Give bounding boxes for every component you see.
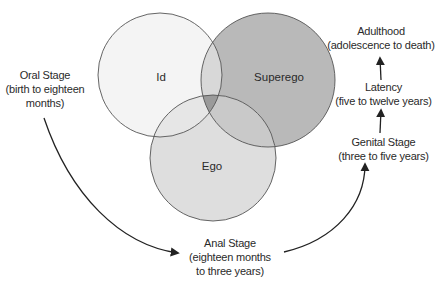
anal-stage-label: Anal Stage (eighteen months to three yea… xyxy=(180,236,280,278)
anal-stage-range: (eighteen months xyxy=(180,250,280,264)
oral-stage-range-2: months) xyxy=(0,96,90,110)
anal-stage-range-2: to three years) xyxy=(180,264,280,278)
ego-label: Ego xyxy=(202,160,222,172)
genital-stage-name: Genital Stage xyxy=(330,135,437,149)
genital-stage-label: Genital Stage (three to five years) xyxy=(330,135,437,163)
id-label: Id xyxy=(156,71,166,83)
oral-stage-label: Oral Stage (birth to eighteen months) xyxy=(0,68,90,110)
anal-stage-name: Anal Stage xyxy=(180,236,280,250)
superego-label: Superego xyxy=(254,71,304,83)
latency-to-adulthood-arrow xyxy=(380,58,381,80)
latency-label: Latency (five to twelve years) xyxy=(330,80,437,108)
oral-stage-name: Oral Stage xyxy=(0,68,90,82)
latency-name: Latency xyxy=(330,80,437,94)
adulthood-label: Adulthood (adolescence to death) xyxy=(325,24,437,52)
adulthood-range: (adolescence to death) xyxy=(325,38,437,52)
genital-stage-range: (three to five years) xyxy=(330,149,437,163)
latency-range: (five to twelve years) xyxy=(330,94,437,108)
anal-to-genital-arrow xyxy=(284,164,365,252)
adulthood-name: Adulthood xyxy=(325,24,437,38)
genital-to-latency-arrow xyxy=(380,110,381,133)
oral-stage-range: (birth to eighteen xyxy=(0,82,90,96)
